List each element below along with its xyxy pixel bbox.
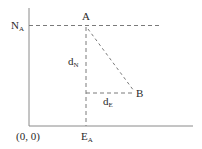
origin-label: (0, 0) [16,131,40,142]
point-a-label: A [82,11,90,22]
coordinate-diagram: NA A B dN dE (0, 0) EA [0,0,202,149]
n-a-label: NA [11,20,24,33]
e-a-sub: A [88,136,93,144]
a-to-b-line [88,29,134,91]
e-a-main: E [81,130,88,142]
d-n-label: dN [68,56,79,69]
d-n-sub: N [74,61,79,69]
point-b-label: B [136,88,143,99]
d-e-sub: E [109,101,113,109]
d-e-label: dE [103,96,113,109]
n-a-main: N [11,19,19,31]
e-a-label: EA [81,131,93,144]
n-a-sub: A [19,25,24,33]
diagram-lines [0,0,202,149]
